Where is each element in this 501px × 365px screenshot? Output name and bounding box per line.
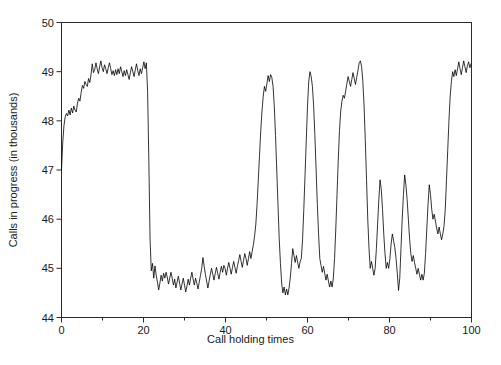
tick-marks (57, 23, 472, 323)
x-tick-label: 0 (58, 324, 64, 336)
y-tick-label: 46 (28, 213, 54, 225)
x-tick-label: 20 (137, 324, 149, 336)
x-tick-label: 40 (219, 324, 231, 336)
y-tick-label: 45 (28, 262, 54, 274)
chart-figure: Calls in progress (in thousands) Call ho… (0, 0, 501, 365)
series-polyline (62, 61, 472, 295)
x-tick-label: 80 (383, 324, 395, 336)
y-tick-label: 44 (28, 312, 54, 324)
x-tick-label: 100 (462, 324, 480, 336)
y-tick-label: 50 (28, 17, 54, 29)
y-tick-label: 49 (28, 66, 54, 78)
data-series-line (62, 61, 472, 295)
axis-frame (62, 23, 472, 318)
plot-area (0, 0, 501, 365)
x-tick-label: 60 (301, 324, 313, 336)
y-tick-label: 47 (28, 164, 54, 176)
y-tick-label: 48 (28, 115, 54, 127)
